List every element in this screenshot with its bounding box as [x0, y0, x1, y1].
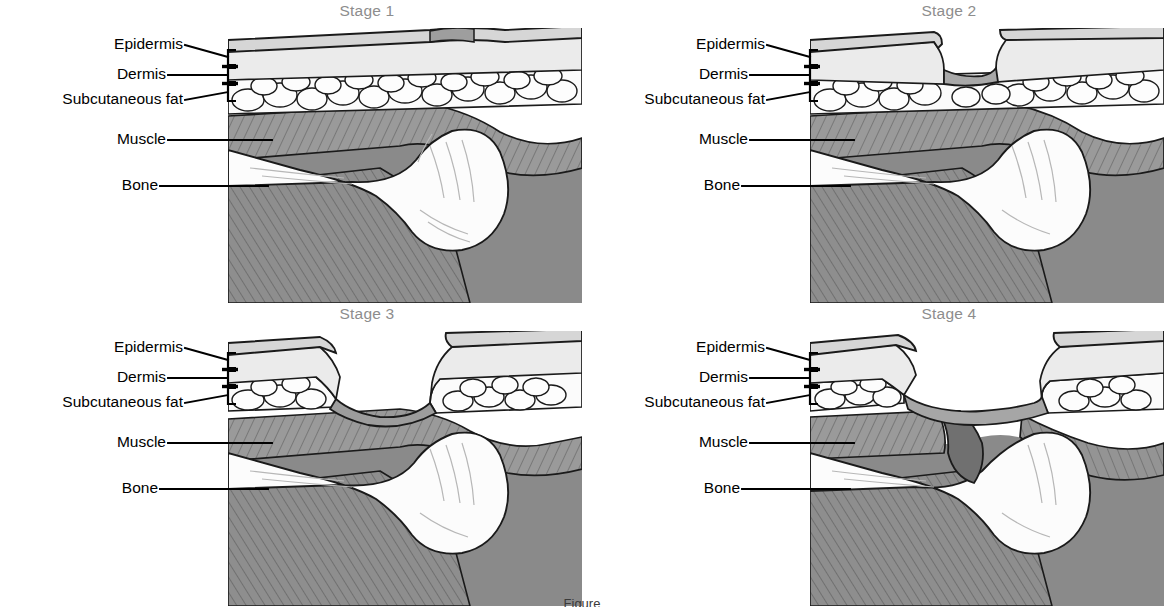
wound-bed-stage-2 — [944, 68, 998, 86]
label-dermis: Dermis — [117, 65, 166, 82]
label-bone: Bone — [122, 479, 158, 496]
leader-subcutaneous-fat — [767, 395, 810, 403]
label-bone: Bone — [704, 479, 740, 496]
leader-subcutaneous-fat — [185, 395, 228, 403]
label-subcutaneous-fat: Subcutaneous fat — [62, 90, 183, 107]
label-muscle: Muscle — [699, 433, 748, 450]
label-subcutaneous-fat: Subcutaneous fat — [62, 393, 183, 410]
panel-stage-2: Stage 2 — [582, 0, 1164, 303]
tissue-cross-section — [810, 26, 1164, 303]
label-muscle: Muscle — [117, 433, 166, 450]
leader-subcutaneous-fat — [767, 92, 810, 100]
label-subcutaneous-fat: Subcutaneous fat — [644, 90, 765, 107]
label-bone: Bone — [122, 176, 158, 193]
figure-caption: Figure — [0, 596, 1164, 607]
leader-epidermis — [185, 45, 228, 57]
leader-epidermis — [767, 45, 810, 57]
label-dermis: Dermis — [699, 368, 748, 385]
label-epidermis: Epidermis — [696, 35, 765, 52]
tissue-cross-section — [228, 329, 582, 606]
illustration-stage-2: Epidermis Dermis Subcutaneous fat Muscle… — [582, 0, 1164, 303]
label-muscle: Muscle — [117, 130, 166, 147]
label-muscle: Muscle — [699, 130, 748, 147]
illustration-stage-4: Epidermis Dermis Subcutaneous fat Muscle… — [582, 303, 1164, 606]
label-bone: Bone — [704, 176, 740, 193]
leader-epidermis — [185, 348, 228, 360]
illustration-stage-3: Epidermis Dermis Subcutaneous fat Muscle… — [0, 303, 582, 606]
epidermis-layer-right — [1000, 26, 1164, 40]
label-dermis: Dermis — [117, 368, 166, 385]
tissue-cross-section — [228, 26, 582, 303]
erythema-patch — [430, 28, 474, 42]
pressure-ulcer-stages-figure: Stage 1 — [0, 0, 1164, 607]
leader-subcutaneous-fat — [185, 92, 228, 100]
tissue-cross-section — [810, 329, 1164, 606]
upper-muscle-left — [810, 411, 945, 459]
panel-stage-4: Stage 4 — [582, 303, 1164, 606]
leader-epidermis — [767, 348, 810, 360]
label-epidermis: Epidermis — [696, 338, 765, 355]
panel-stage-1: Stage 1 — [0, 0, 582, 303]
label-subcutaneous-fat: Subcutaneous fat — [644, 393, 765, 410]
label-epidermis: Epidermis — [114, 35, 183, 52]
illustration-stage-1: Epidermis Dermis Subcutaneous fat Muscle… — [0, 0, 582, 303]
label-epidermis: Epidermis — [114, 338, 183, 355]
panel-stage-3: Stage 3 — [0, 303, 582, 606]
label-dermis: Dermis — [699, 65, 748, 82]
